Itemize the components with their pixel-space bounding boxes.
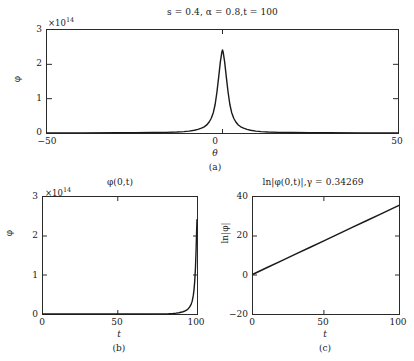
figure-canvas: s = 0.4, α = 0.8,t = 100 ×1014 φ 3 2 1 0 [0,0,414,361]
panel-a-plot [47,30,398,133]
panel-a-ytick-2: 2 [26,58,42,68]
panel-b-xtick-50: 50 [109,317,125,327]
panel-b-y-exponent: 14 [63,186,71,194]
panel-b-xtick-100: 100 [184,317,208,327]
panel-a-curve [47,50,398,133]
panel-a-xtick-50: 50 [386,136,408,146]
panel-c-xtick-0: 0 [245,317,259,327]
panel-c-ytick-40: 40 [226,191,248,201]
panel-c-xlabel: t [319,329,331,339]
panel-b-ytick-3: 3 [22,191,38,201]
panel-a-ticks-inner [47,30,398,133]
panel-c-plot [253,197,399,314]
panel-a-xtick-0: 0 [208,136,222,146]
panel-a-y-multiplier: ×1014 [48,16,74,28]
panel-b-sublabel: (b) [107,343,131,353]
panel-c-xtick-100: 100 [386,317,410,327]
panel-c-axes [252,196,400,315]
panel-a-axes [46,29,399,134]
panel-b: φ(0,t) ×1014 φ 3 2 1 0 0 50 10 [0,180,207,361]
panel-a-ytick-3: 3 [26,24,42,34]
panel-a-sublabel: (a) [203,162,227,172]
panel-a-xtick-min50: −50 [32,136,62,146]
panel-a-y-multiplier-text: ×10 [48,18,66,28]
panel-c-ytick-0: 0 [226,270,248,280]
panel-a-ytick-1: 1 [26,93,42,103]
panel-b-xlabel: t [113,329,125,339]
panel-c-ytick-20: 20 [226,230,248,240]
panel-c-title: ln|φ(0,t)|,γ = 0.34269 [218,177,408,187]
panel-b-plot [43,197,197,314]
panel-c-ytick-min20: −20 [218,309,248,319]
panel-c-xtick-50: 50 [315,317,331,327]
panel-b-curve [43,220,197,314]
panel-b-ticks-inner [43,197,197,314]
panel-c-sublabel: (c) [313,343,337,353]
panel-b-ytick-1: 1 [22,270,38,280]
panel-b-xtick-0: 0 [35,317,49,327]
panel-a-y-exponent: 14 [66,16,74,24]
panel-b-axes [42,196,198,315]
panel-a-ylabel: φ [12,72,22,86]
panel-c-ticks-inner [253,197,399,314]
panel-c: ln|φ(0,t)|,γ = 0.34269 ln|φ| 40 20 0 −20… [207,180,414,361]
panel-a-title: s = 0.4, α = 0.8,t = 100 [46,7,399,17]
panel-b-ytick-2: 2 [22,230,38,240]
panel-c-curve [253,205,399,274]
panel-a-xlabel: θ [208,148,222,158]
panel-b-ylabel: φ [4,226,14,240]
panel-a: s = 0.4, α = 0.8,t = 100 ×1014 φ 3 2 1 0 [0,0,414,180]
